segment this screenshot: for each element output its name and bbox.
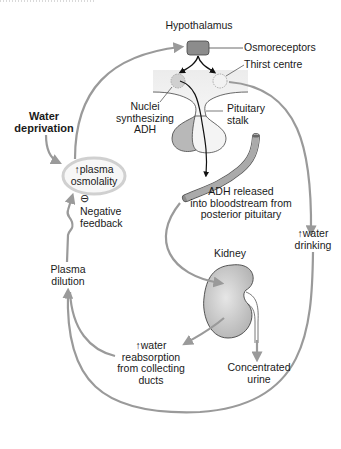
concentrated-line-2: urine (224, 374, 294, 386)
nuclei-line-1: Nuclei (112, 101, 178, 113)
thirst-centre (213, 74, 227, 88)
label-nuclei-synthesizing-adh: Nuclei synthesizing ADH (112, 101, 178, 136)
plasma-osmolality-line-1: plasma (80, 163, 114, 175)
kidney (204, 265, 259, 343)
negative-feedback-line-2: feedback (80, 218, 123, 230)
water-drinking-line-2: drinking (290, 240, 336, 252)
label-plasma-dilution: Plasma dilution (44, 264, 92, 287)
label-pituitary-stalk: Pituitary stalk (227, 103, 265, 126)
label-concentrated-urine: Concentrated urine (224, 362, 294, 385)
label-water-deprivation: Water deprivation (14, 111, 74, 134)
nuclei-line-3: ADH (112, 124, 178, 136)
label-plasma-osmolality: ↑plasma osmolality (64, 164, 124, 187)
label-kidney: Kidney (210, 248, 250, 260)
pituitary-line-1: Pituitary (227, 103, 265, 115)
plasma-dilution-line-2: dilution (44, 276, 92, 288)
water-deprivation-line-1: Water (14, 111, 74, 123)
label-thirst-centre: Thirst centre (244, 59, 302, 71)
adh-released-line-3: posterior pituitary (188, 209, 294, 221)
water-deprivation-line-2: deprivation (14, 123, 74, 135)
pituitary-gland (172, 116, 226, 153)
adh-released-line-1: ADH released (188, 186, 294, 198)
concentrated-line-1: Concentrated (224, 362, 294, 374)
reabsorption-line-1: water (141, 339, 167, 351)
nuclei-synthesizing-adh (171, 74, 185, 88)
reabsorption-line-4: ducts (112, 375, 190, 387)
negative-symbol-icon: ⊖ (80, 193, 89, 205)
label-water-drinking: ↑water drinking (290, 228, 336, 251)
reabsorption-line-3: from collecting (112, 363, 190, 375)
plasma-dilution-line-1: Plasma (44, 264, 92, 276)
label-negative-feedback: Negative feedback (80, 206, 123, 229)
osmoreceptors-box (187, 41, 209, 55)
water-drinking-line-1: water (303, 227, 329, 239)
pituitary-line-2: stalk (227, 115, 265, 127)
plasma-osmolality-line-2: osmolality (64, 176, 124, 188)
label-hypothalamus: Hypothalamus (160, 20, 238, 32)
label-adh-released: ADH released into bloodstream from poste… (188, 186, 294, 221)
label-water-reabsorption: ↑water reabsorption from collecting duct… (112, 340, 190, 386)
negative-feedback-line-1: Negative (80, 206, 123, 218)
label-osmoreceptors: Osmoreceptors (244, 42, 316, 54)
